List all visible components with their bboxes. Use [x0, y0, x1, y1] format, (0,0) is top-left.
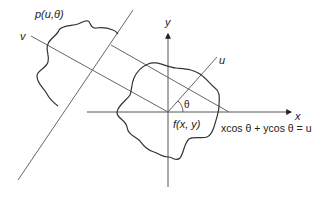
u-axis-label: u	[219, 54, 225, 66]
radon-projection-diagram: p(u,θ) v y u x θ f(x, y) xcos θ + ycos θ…	[0, 0, 326, 203]
projection-profile-curve	[37, 21, 118, 106]
v-axis-label: v	[20, 30, 27, 42]
ray-line	[111, 45, 229, 112]
projection-axis	[18, 10, 133, 180]
theta-label: θ	[184, 99, 190, 110]
y-axis-label: y	[164, 16, 172, 28]
u-axis	[168, 57, 217, 112]
equation-label: xcos θ + ycos θ = u	[221, 122, 312, 134]
theta-arc	[178, 101, 183, 112]
x-axis-label: x	[294, 110, 301, 122]
function-label: f(x, y)	[173, 118, 201, 130]
projection-label: p(u,θ)	[34, 8, 64, 20]
